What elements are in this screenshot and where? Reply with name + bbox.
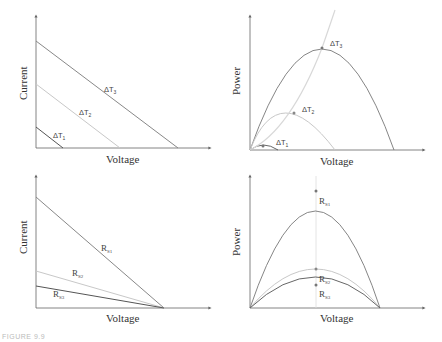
y-axis-label: Current xyxy=(17,220,29,254)
label-rs2: RS2 xyxy=(319,274,331,285)
x-axis-label: Voltage xyxy=(106,153,140,165)
peak-dt1 xyxy=(262,145,265,148)
y-axis-label: Current xyxy=(17,66,29,100)
chart-top-left: ΔT3 ΔT2 ΔT1 Voltage Current xyxy=(17,16,210,165)
y-axis-label: Power xyxy=(230,67,242,95)
label-dt1: ΔT1 xyxy=(276,138,289,148)
x-axis-label: Voltage xyxy=(320,155,354,167)
peak-dt2 xyxy=(293,112,296,115)
y-axis-label: Power xyxy=(230,228,242,256)
label-rs1: RS1 xyxy=(319,196,331,207)
chart-bottom-left: RS1 RS2 RS3 Voltage Current xyxy=(17,176,210,324)
chart-top-right: ΔT3 ΔT2 ΔT1 Voltage Power xyxy=(230,10,424,167)
peak-rs1 xyxy=(315,190,318,193)
curve-rs3 xyxy=(250,277,380,308)
chart-bottom-right: RS1 RS2 RS3 Voltage Power xyxy=(230,176,424,324)
figure-canvas: ΔT3 ΔT2 ΔT1 Voltage Current ΔT3 ΔT2 ΔT1 … xyxy=(0,0,442,342)
label-dt2: ΔT2 xyxy=(302,105,315,115)
peak-dt3 xyxy=(321,47,324,50)
label-rs2: RS2 xyxy=(72,268,84,279)
label-dt1: ΔT1 xyxy=(53,131,66,141)
x-axis-label: Voltage xyxy=(320,312,354,324)
label-dt3: ΔT3 xyxy=(104,85,117,95)
label-dt3: ΔT3 xyxy=(330,39,343,49)
mpp-locus-curve xyxy=(250,10,335,150)
figure-caption: FIGURE 9.9 xyxy=(2,333,45,340)
label-rs1: RS1 xyxy=(101,243,113,254)
peak-rs3 xyxy=(315,284,318,287)
label-dt2: ΔT2 xyxy=(79,108,92,118)
curve-rs2 xyxy=(250,269,380,308)
x-axis-label: Voltage xyxy=(106,312,140,324)
peak-rs2 xyxy=(315,268,318,271)
curve-dt2 xyxy=(250,113,335,150)
curve-rs1 xyxy=(250,211,380,308)
label-rs3: RS3 xyxy=(319,289,331,300)
